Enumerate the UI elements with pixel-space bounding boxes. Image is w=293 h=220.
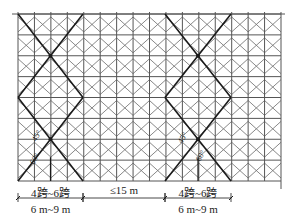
lattice-line <box>207 163 215 170</box>
lattice-line <box>273 80 281 87</box>
lattice-line <box>240 129 248 136</box>
lattice-line <box>265 129 273 136</box>
lattice-line <box>59 87 67 94</box>
lattice-line <box>182 108 190 115</box>
lattice-line <box>51 150 59 157</box>
lattice-line <box>166 163 174 170</box>
lattice-line <box>273 129 281 136</box>
lattice-line <box>51 17 59 24</box>
lattice-line <box>199 171 207 178</box>
lattice-line <box>223 129 231 136</box>
lattice-line <box>256 121 264 128</box>
lattice-line <box>174 59 182 66</box>
lattice-line <box>141 80 149 87</box>
lattice-line <box>215 101 223 108</box>
lattice-line <box>108 66 116 73</box>
lattice-line <box>199 87 207 94</box>
lattice-line <box>248 87 256 94</box>
lattice-line <box>174 38 182 45</box>
lattice-line <box>92 80 100 87</box>
lattice-line <box>240 38 248 45</box>
lattice-line <box>43 87 51 94</box>
lattice-line <box>215 121 223 128</box>
lattice-line <box>215 171 223 178</box>
lattice-line <box>199 17 207 24</box>
lattice-line <box>141 108 149 115</box>
lattice-line <box>207 45 215 52</box>
lattice-line <box>182 24 190 31</box>
lattice-line <box>166 108 174 115</box>
lattice-line <box>150 121 158 128</box>
lattice-line <box>248 163 256 170</box>
lattice-line <box>166 121 174 128</box>
lattice-line <box>215 150 223 157</box>
lattice-line <box>265 66 273 73</box>
lattice-line <box>84 108 92 115</box>
lattice-line <box>59 45 67 52</box>
lattice-line <box>26 45 34 52</box>
lattice-line <box>125 121 133 128</box>
lattice-line <box>133 38 141 45</box>
lattice-line <box>100 45 108 52</box>
lattice-line <box>92 45 100 52</box>
lattice-line <box>51 24 59 31</box>
lattice-line <box>158 45 166 52</box>
lattice-line <box>108 24 116 31</box>
lattice-line <box>248 101 256 108</box>
lattice-line <box>141 101 149 108</box>
lattice-line <box>174 45 182 52</box>
lattice-line <box>215 59 223 66</box>
lattice-line <box>108 171 116 178</box>
lattice-line <box>76 108 84 115</box>
lattice-line <box>84 142 92 149</box>
lattice-line <box>18 59 26 66</box>
lattice-line <box>207 87 215 94</box>
lattice-line <box>133 150 141 157</box>
lattice-line <box>223 108 231 115</box>
lattice-line <box>232 171 240 178</box>
lattice-line <box>76 121 84 128</box>
lattice-line <box>158 80 166 87</box>
lattice-line <box>117 45 125 52</box>
lattice-line <box>26 66 34 73</box>
lattice-line <box>108 87 116 94</box>
lattice-line <box>240 150 248 157</box>
lattice-line <box>273 66 281 73</box>
lattice-line <box>158 87 166 94</box>
lattice-line <box>43 17 51 24</box>
lattice-line <box>232 150 240 157</box>
lattice-line <box>92 17 100 24</box>
lattice-line <box>215 87 223 94</box>
dim-label-left-spans: 4跨~6跨 <box>18 184 83 200</box>
lattice-line <box>223 150 231 157</box>
lattice-line <box>240 171 248 178</box>
lattice-line <box>125 142 133 149</box>
lattice-line <box>232 163 240 170</box>
lattice-line <box>240 108 248 115</box>
lattice-line <box>150 129 158 136</box>
lattice-line <box>256 45 264 52</box>
lattice-line <box>92 59 100 66</box>
lattice-line <box>256 80 264 87</box>
lattice-line <box>133 163 141 170</box>
lattice-line <box>84 101 92 108</box>
lattice-line <box>125 24 133 31</box>
lattice-line <box>265 59 273 66</box>
lattice-line <box>100 24 108 31</box>
lattice-line <box>240 163 248 170</box>
lattice-line <box>59 171 67 178</box>
lattice-line <box>67 171 75 178</box>
lattice-line <box>182 80 190 87</box>
lattice-line <box>84 24 92 31</box>
lattice-line <box>84 80 92 87</box>
angle-label: 45° <box>30 129 43 143</box>
lattice-line <box>232 87 240 94</box>
lattice-line <box>18 66 26 73</box>
lattice-line <box>265 108 273 115</box>
lattice-line <box>84 150 92 157</box>
lattice-line <box>141 45 149 52</box>
lattice-line <box>133 59 141 66</box>
lattice-line <box>117 171 125 178</box>
lattice-line <box>125 17 133 24</box>
lattice-line <box>207 59 215 66</box>
